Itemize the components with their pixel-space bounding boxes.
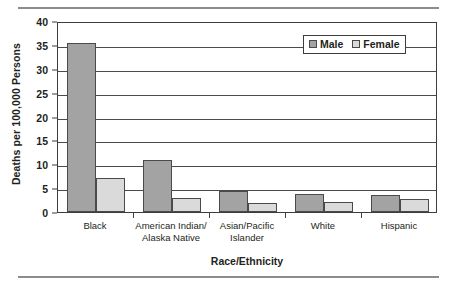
bar-female	[96, 178, 125, 212]
y-axis-tick-label: 0	[8, 207, 48, 219]
bar-male	[219, 191, 248, 212]
female-swatch-icon	[352, 40, 360, 48]
y-axis-tick-label: 10	[8, 159, 48, 171]
bar-male	[67, 43, 96, 213]
legend-label-male: Male	[320, 38, 343, 50]
y-axis-tick-label: 25	[8, 88, 48, 100]
top-divider-rule	[18, 7, 439, 9]
figure: Deaths per 100,000 Persons 0510152025303…	[0, 0, 457, 286]
bar-female	[400, 199, 429, 212]
legend-item-female: Female	[352, 38, 399, 50]
legend-label-female: Female	[363, 38, 399, 50]
bottom-divider-rule	[18, 276, 439, 278]
y-axis-tick-label: 5	[8, 183, 48, 195]
x-axis-title: Race/Ethnicity	[57, 255, 437, 267]
bar-female	[248, 203, 277, 212]
legend-item-male: Male	[309, 38, 343, 50]
chart-legend: Male Female	[303, 35, 406, 54]
x-axis-tick-mark	[285, 213, 286, 218]
bar-male	[143, 160, 172, 212]
x-axis-tick-mark	[361, 213, 362, 218]
bar-male	[295, 194, 324, 212]
y-axis-tick-label: 30	[8, 64, 48, 76]
bar-female	[172, 198, 201, 212]
x-axis-tick-mark	[209, 213, 210, 218]
bar-female	[324, 202, 353, 212]
y-axis-ticks: 0510152025303540	[0, 22, 57, 213]
x-axis-ticks	[57, 213, 437, 219]
x-axis-tick-mark	[133, 213, 134, 218]
x-axis-category-label: Hispanic	[344, 220, 454, 232]
x-axis-labels: BlackAmerican Indian/ Alaska NativeAsian…	[57, 220, 437, 252]
male-swatch-icon	[309, 40, 317, 48]
y-axis-tick-label: 40	[8, 16, 48, 28]
y-axis-tick-label: 35	[8, 40, 48, 52]
bar-male	[371, 195, 400, 212]
y-axis-tick-label: 20	[8, 112, 48, 124]
y-axis-tick-label: 15	[8, 135, 48, 147]
